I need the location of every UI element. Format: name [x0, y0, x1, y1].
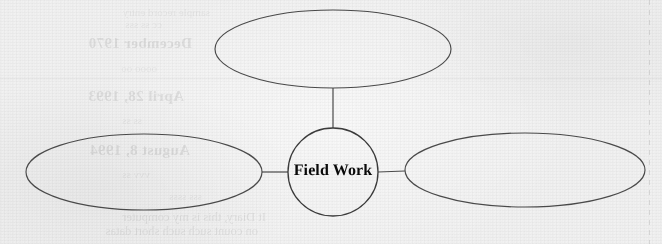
center-node-label: Field Work — [288, 161, 378, 180]
branch-node-right[interactable] — [405, 133, 645, 207]
connector-center-to-right — [378, 171, 405, 172]
concept-map-diagram — [0, 0, 662, 244]
branch-node-top[interactable] — [215, 10, 451, 88]
branch-node-left[interactable] — [26, 134, 262, 210]
scanned-page: December 1970April 28, 1993August 8, 199… — [0, 0, 662, 244]
branch-nodes-group — [26, 10, 645, 210]
connectors-group — [262, 88, 405, 172]
